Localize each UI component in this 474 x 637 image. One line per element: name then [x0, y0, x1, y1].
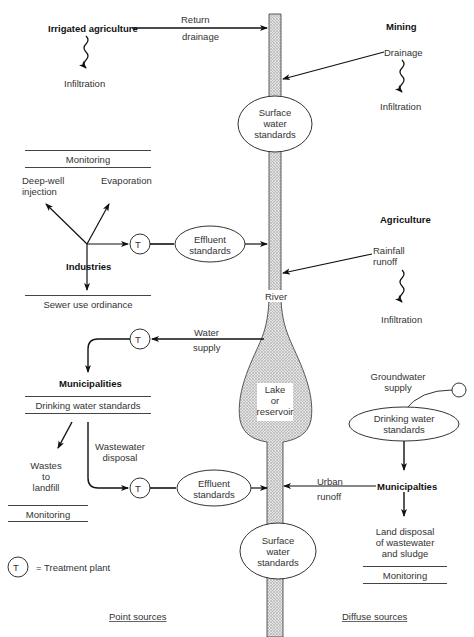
right-monitoring-label: Monitoring: [363, 570, 447, 581]
agriculture-infiltration-label: Infiltration: [381, 314, 422, 325]
runoff-label: runoff: [317, 491, 341, 502]
supply-label: supply: [193, 342, 220, 353]
rule: [25, 396, 151, 397]
groundwater-supply-label: Groundwatersupply: [368, 371, 428, 393]
treatment-plant-symbol: T: [135, 239, 141, 250]
sewer-use-ordinance-label: Sewer use ordinance: [25, 299, 151, 310]
municipalities-label: Municipalities: [59, 378, 122, 389]
reservoir-text: reservoir: [255, 406, 295, 417]
legend-treatment-text: = Treatment plant: [36, 562, 110, 573]
mining-label: Mining: [386, 21, 417, 32]
groundwater-text: Groundwater: [368, 371, 428, 382]
surface-water-standards-bottom: Surface water standards: [248, 535, 308, 568]
evaporation-label: Evaporation: [101, 175, 152, 186]
rainfall-runoff-label: Rainfallrunoff: [373, 245, 405, 267]
wastewater-disposal-label: Wastewaterdisposal: [92, 441, 148, 463]
drinking-water-text: Drinking water: [359, 413, 449, 424]
municipalities-right-label: Municipalties: [377, 481, 437, 492]
return-label: Return: [181, 14, 210, 25]
effluent-standards-municipal: Effluent standards: [184, 478, 244, 500]
treatment-plant-symbol-out: T: [135, 483, 141, 494]
rule: [8, 521, 88, 522]
deep-well-text: Deep-well: [22, 175, 64, 186]
municipal-monitoring-label: Monitoring: [8, 509, 88, 520]
rule: [363, 566, 447, 567]
rule: [25, 295, 151, 296]
rule: [25, 167, 151, 168]
landfill-text: landfill: [26, 482, 66, 493]
standards-text: standards: [180, 245, 240, 256]
to-text: to: [26, 471, 66, 482]
surface-water-standards-top: Surface water standards: [245, 107, 305, 140]
rule: [25, 413, 151, 414]
wastewater-text: Wastewater: [92, 441, 148, 452]
diffuse-sources-label: Diffuse sources: [342, 611, 407, 622]
mining-infiltration-label: Infiltration: [380, 101, 421, 112]
drinking-water-standards-ellipse: Drinking water standards: [359, 413, 449, 435]
water-label: Water: [194, 327, 219, 338]
water-text: water: [245, 118, 305, 129]
land-disposal-text: Land disposal: [372, 526, 438, 537]
rule: [25, 150, 151, 151]
standards-text: standards: [184, 489, 244, 500]
disposal-text: disposal: [92, 452, 148, 463]
wastes-text: Wastes: [26, 460, 66, 471]
standards-text: standards: [245, 129, 305, 140]
river-label: River: [265, 291, 287, 302]
deep-well-label: Deep-wellinjection: [22, 175, 64, 197]
and-sludge-text: and sludge: [372, 548, 438, 559]
injection-text: injection: [22, 186, 64, 197]
industries-label: Industries: [66, 261, 111, 272]
drinking-water-standards-label: Drinking water standards: [25, 400, 151, 411]
industries-monitoring-label: Monitoring: [25, 154, 151, 165]
wastes-landfill-label: Wastestolandfill: [26, 460, 66, 493]
effluent-text: Effluent: [180, 234, 240, 245]
or-text: or: [255, 395, 295, 406]
agriculture-label: Agriculture: [380, 214, 431, 225]
standards-text: standards: [359, 424, 449, 435]
supply-text: supply: [368, 382, 428, 393]
rainfall-text: Rainfall: [373, 245, 405, 256]
rule: [8, 505, 88, 506]
lake-label: Lake or reservoir: [255, 384, 295, 417]
runoff-text: runoff: [373, 256, 405, 267]
mining-drainage-label: Drainage: [384, 47, 423, 58]
land-disposal-label: Land disposalof wastewaterand sludge: [372, 526, 438, 559]
rule: [363, 583, 447, 584]
of-wastewater-text: of wastewater: [372, 537, 438, 548]
urban-label: Urban: [317, 476, 343, 487]
effluent-text: Effluent: [184, 478, 244, 489]
surface-text: Surface: [248, 535, 308, 546]
effluent-standards-industries: Effluent standards: [180, 234, 240, 256]
point-sources-label: Point sources: [109, 611, 167, 622]
water-text: water: [248, 546, 308, 557]
lake-text: Lake: [255, 384, 295, 395]
drainage-label: drainage: [182, 31, 219, 42]
standards-text: standards: [248, 557, 308, 568]
legend-treatment-symbol: T: [13, 562, 19, 573]
surface-text: Surface: [245, 107, 305, 118]
infiltration-label: Infiltration: [64, 78, 105, 89]
irrigated-agriculture-label: Irrigated agriculture: [48, 23, 138, 34]
treatment-plant-symbol-in: T: [135, 334, 141, 345]
